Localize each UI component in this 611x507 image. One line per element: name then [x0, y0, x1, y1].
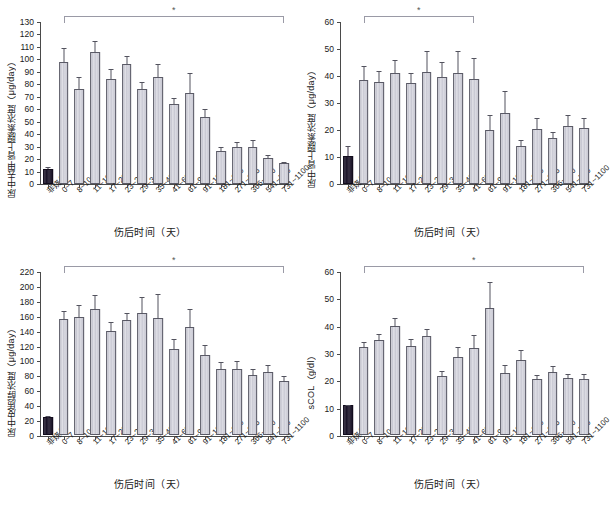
bar: [185, 327, 195, 435]
bar-group: [498, 0, 514, 254]
x-axis-tick-mark: [158, 437, 159, 440]
y-axis-tick-label: 40: [25, 401, 34, 411]
bar: [501, 113, 511, 184]
error-bar-cap: [219, 362, 224, 363]
y-axis-tick-label: 130: [20, 17, 34, 27]
error-bar-cap: [140, 297, 145, 298]
y-axis-tick-label: 200: [20, 282, 34, 292]
x-axis-tick-mark: [190, 185, 191, 188]
x-axis-tick-mark: [158, 185, 159, 188]
y-axis-tick-label: 180: [20, 297, 34, 307]
bar-group: [229, 0, 245, 254]
x-axis-title: 伤后时间（天）: [300, 476, 600, 491]
x-axis-tick-mark: [127, 437, 128, 440]
error-bar: [79, 77, 80, 89]
bar: [264, 372, 274, 435]
error-bar-cap: [93, 295, 98, 296]
error-bar-cap: [77, 77, 82, 78]
y-axis-tick-label: 110: [20, 42, 34, 52]
bar-group: [356, 0, 372, 254]
error-bar: [458, 51, 459, 74]
error-bar-cap: [282, 162, 287, 163]
significance-bracket: [364, 266, 585, 273]
error-bar-cap: [124, 56, 129, 57]
bar: [422, 72, 432, 184]
error-bar: [379, 71, 380, 82]
x-axis-tick-mark: [142, 437, 143, 440]
y-axis-label-text: 尿中皮质醇浓度（μg/day）: [4, 324, 17, 437]
x-axis-tick-mark: [64, 437, 65, 440]
bar: [406, 83, 416, 184]
bar-group: [103, 254, 119, 507]
bar: [375, 82, 385, 184]
bar: [469, 79, 479, 184]
bar: [438, 376, 448, 435]
error-bar-cap: [203, 345, 208, 346]
bar-group: [340, 254, 356, 507]
bar-group: [182, 254, 198, 507]
bar: [564, 378, 574, 435]
y-axis-tick-label: 160: [20, 312, 34, 322]
significance-bracket: [64, 16, 285, 23]
error-bar-cap: [124, 313, 129, 314]
y-axis-tick-label: 0: [329, 431, 334, 441]
bar: [564, 126, 574, 184]
error-bar: [252, 140, 253, 147]
y-axis-label: sCOL（g/dl）: [302, 254, 318, 507]
y-axis-tick-label: 20: [25, 154, 34, 164]
bar-group: [72, 254, 88, 507]
bar-group: [103, 0, 119, 254]
y-axis-tick-label: 40: [25, 129, 34, 139]
error-bar-cap: [456, 347, 461, 348]
bar: [185, 93, 195, 184]
y-axis-label: 尿中去甲肾上腺素浓度（μg/day）: [2, 0, 18, 254]
x-axis-tick-mark: [79, 437, 80, 440]
error-bar: [363, 66, 364, 81]
y-axis-tick-label: 30: [325, 98, 334, 108]
x-axis-tick-mark: [142, 185, 143, 188]
bar: [59, 62, 69, 184]
error-bar: [489, 282, 490, 309]
bar-group: [576, 0, 592, 254]
bar-group: [261, 0, 277, 254]
bar-group: [529, 254, 545, 507]
error-bar-cap: [45, 416, 50, 417]
x-axis-tick-mark: [442, 437, 443, 440]
x-axis-tick-mark: [537, 437, 538, 440]
x-axis-tick-mark: [64, 185, 65, 188]
x-axis-tick-mark: [505, 437, 506, 440]
significance-asterisk: *: [172, 6, 176, 15]
bar-group: [356, 254, 372, 507]
bar-group: [403, 254, 419, 507]
bar-group: [72, 0, 88, 254]
error-bar-cap: [266, 365, 271, 366]
y-axis-tick-label: 10: [325, 404, 334, 414]
error-bar: [410, 73, 411, 83]
error-bar: [189, 73, 190, 93]
error-bar-cap: [393, 318, 398, 319]
x-axis-tick-mark: [379, 437, 380, 440]
error-bar-cap: [203, 109, 208, 110]
y-axis-tick-label: 30: [25, 142, 34, 152]
significance-bracket: [64, 266, 285, 273]
error-bar-cap: [582, 374, 587, 375]
x-axis-tick-mark: [521, 437, 522, 440]
bar: [232, 369, 242, 435]
error-bar: [95, 295, 96, 310]
error-bar: [521, 350, 522, 360]
bar-group: [150, 254, 166, 507]
error-bar-cap: [345, 405, 350, 406]
x-axis-tick-mark: [284, 185, 285, 188]
bar: [453, 357, 463, 435]
bar: [75, 317, 85, 435]
bar-group: [513, 254, 529, 507]
bar-group: [198, 254, 214, 507]
bar-group: [119, 254, 135, 507]
x-axis-tick-mark: [427, 185, 428, 188]
error-bar-cap: [266, 155, 271, 156]
bar-group: [419, 254, 435, 507]
bar-group: [529, 0, 545, 254]
x-axis-tick-mark: [95, 185, 96, 188]
x-axis-tick-mark: [442, 185, 443, 188]
x-axis-title: 伤后时间（天）: [0, 476, 300, 491]
